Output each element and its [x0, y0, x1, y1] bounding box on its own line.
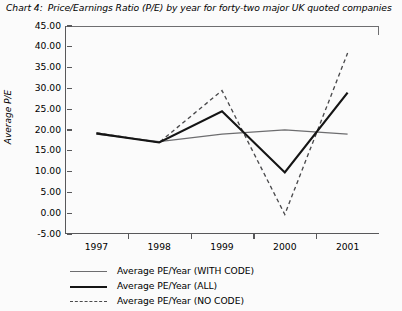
legend-item[interactable]: Average PE/Year (NO CODE) — [68, 293, 368, 308]
legend-item-label: Average PE/Year (ALL) — [117, 280, 217, 291]
legend-item[interactable]: Average PE/Year (WITH CODE) — [68, 263, 368, 278]
legend-line-swatch — [68, 280, 108, 292]
legend-line-swatch — [68, 265, 108, 277]
series-line-all — [96, 93, 347, 173]
chart-legend: Average PE/Year (WITH CODE)Average PE/Ye… — [68, 263, 368, 308]
legend-item-label: Average PE/Year (WITH CODE) — [117, 265, 254, 276]
legend-item-label: Average PE/Year (NO CODE) — [117, 295, 244, 306]
legend-line-swatch — [68, 295, 108, 307]
legend-item[interactable]: Average PE/Year (ALL) — [68, 278, 368, 293]
chart-figure: Chart 4:Price/Earnings Ratio (P/E) by ye… — [0, 0, 402, 311]
